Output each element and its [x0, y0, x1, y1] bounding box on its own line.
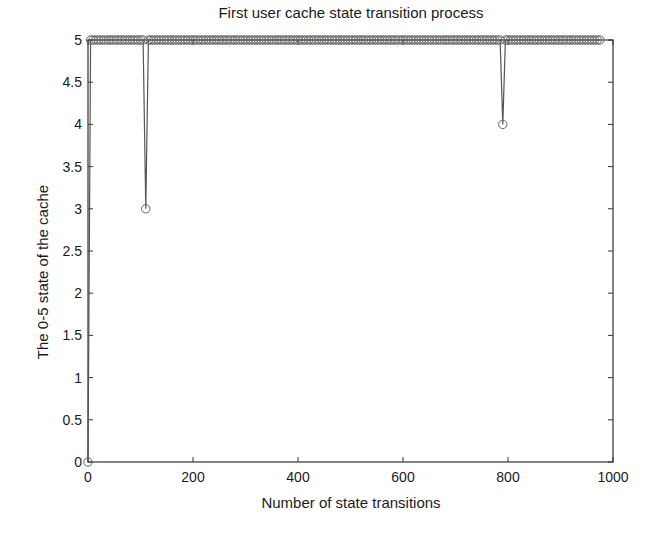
- y-tick-label: 5: [74, 32, 82, 48]
- y-tick-label: 3.5: [63, 159, 83, 175]
- y-axis-label: The 0-5 state of the cache: [34, 185, 51, 359]
- y-tick-label: 0: [74, 454, 82, 470]
- chart-title: First user cache state transition proces…: [218, 4, 483, 21]
- y-tick-label: 2.5: [63, 243, 83, 259]
- y-tick-label: 3: [74, 201, 82, 217]
- x-tick-label: 400: [286, 469, 310, 485]
- y-tick-label: 2: [74, 285, 82, 301]
- axes-box: [88, 40, 613, 462]
- y-tick-label: 4: [74, 116, 82, 132]
- chart: First user cache state transition proces…: [0, 0, 662, 535]
- plot-area: [88, 40, 613, 462]
- x-axis-label: Number of state transitions: [261, 494, 440, 511]
- y-tick-label: 1: [74, 370, 82, 386]
- y-tick-label: 1.5: [63, 327, 83, 343]
- x-tick-label: 1000: [597, 469, 628, 485]
- x-tick-label: 0: [84, 469, 92, 485]
- y-tick-label: 0.5: [63, 412, 83, 428]
- x-tick-label: 800: [496, 469, 520, 485]
- x-tick-label: 200: [181, 469, 205, 485]
- y-tick-label: 4.5: [63, 74, 83, 90]
- x-tick-label: 600: [391, 469, 415, 485]
